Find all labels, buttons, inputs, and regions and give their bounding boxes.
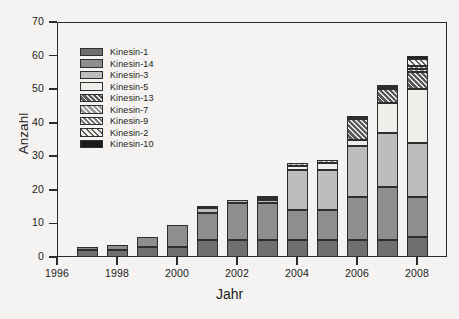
bar-segment-kinesin-1 <box>407 237 428 257</box>
chart-root: 010203040506070 199619982000200220042006… <box>0 0 459 319</box>
legend-item-kinesin-2: Kinesin-2 <box>80 127 154 137</box>
bar-2006 <box>347 116 368 257</box>
bar-segment-kinesin-1 <box>167 247 188 257</box>
bar-segment-kinesin-1 <box>317 240 338 257</box>
bar-segment-kinesin-14 <box>287 210 308 240</box>
bar-segment-kinesin-5 <box>197 206 218 208</box>
legend-item-kinesin-5: Kinesin-5 <box>80 81 154 91</box>
legend-item-kinesin-14: Kinesin-14 <box>80 58 154 68</box>
bar-segment-kinesin-14 <box>137 237 158 247</box>
bar-segment-kinesin-1 <box>287 240 308 257</box>
bar-segment-kinesin-14 <box>377 187 398 241</box>
bar-segment-kinesin-5 <box>347 140 368 147</box>
bar-segment-kinesin-3 <box>317 170 338 210</box>
bar-segment-kinesin-9 <box>257 196 278 198</box>
legend-item-label: Kinesin-9 <box>110 116 148 126</box>
bar-segment-kinesin-14 <box>77 247 98 250</box>
bar-segment-kinesin-14 <box>257 203 278 240</box>
bar-2008 <box>407 56 428 257</box>
legend-item-label: Kinesin-1 <box>110 47 148 57</box>
bar-2002 <box>227 200 248 257</box>
bar-segment-kinesin-3 <box>227 200 248 203</box>
legend-swatch-icon <box>80 48 103 56</box>
bar-2003 <box>257 197 278 257</box>
bar-segment-kinesin-1 <box>77 250 98 257</box>
bar-segment-kinesin-13 <box>407 72 428 89</box>
legend-swatch-icon <box>80 140 103 148</box>
bar-1999 <box>137 237 158 257</box>
bar-1998 <box>107 245 128 257</box>
bar-segment-kinesin-1 <box>347 240 368 257</box>
bar-segment-kinesin-1 <box>257 240 278 257</box>
legend-swatch-icon <box>80 59 103 67</box>
bar-segment-kinesin-14 <box>197 213 218 240</box>
bar-segment-kinesin-5 <box>287 166 308 169</box>
bar-segment-kinesin-13 <box>347 119 368 139</box>
legend-item-kinesin-3: Kinesin-3 <box>80 70 154 80</box>
legend-item-label: Kinesin-7 <box>110 105 148 115</box>
bar-segment-kinesin-1 <box>107 250 128 257</box>
bar-segment-kinesin-10 <box>407 56 428 59</box>
bar-segment-kinesin-9 <box>407 66 428 69</box>
legend-item-kinesin-9: Kinesin-9 <box>80 116 154 126</box>
bar-segment-kinesin-7 <box>317 160 338 163</box>
legend-swatch-icon <box>80 94 103 102</box>
bar-segment-kinesin-13 <box>377 89 398 102</box>
legend-swatch-icon <box>80 105 103 113</box>
bar-segment-kinesin-2 <box>407 59 428 66</box>
bar-segment-kinesin-2 <box>347 116 368 118</box>
bar-2004 <box>287 163 308 257</box>
bar-2000 <box>167 225 188 257</box>
bar-segment-kinesin-7 <box>287 163 308 166</box>
bar-segment-kinesin-14 <box>317 210 338 240</box>
legend-item-kinesin-7: Kinesin-7 <box>80 104 154 114</box>
bar-segment-kinesin-3 <box>257 200 278 203</box>
bar-segment-kinesin-14 <box>227 203 248 240</box>
bar-segment-kinesin-1 <box>377 240 398 257</box>
bar-segment-kinesin-3 <box>197 208 218 213</box>
bar-segment-kinesin-14 <box>107 245 128 250</box>
bar-series-area <box>0 0 459 319</box>
legend-item-label: Kinesin-3 <box>110 70 148 80</box>
legend-swatch-icon <box>80 117 103 125</box>
bar-segment-kinesin-3 <box>347 146 368 196</box>
legend-item-kinesin-1: Kinesin-1 <box>80 47 154 57</box>
bar-segment-kinesin-3 <box>287 170 308 210</box>
bar-segment-kinesin-5 <box>377 103 398 133</box>
bar-2005 <box>317 160 338 257</box>
bar-segment-kinesin-3 <box>377 133 398 187</box>
chart-legend: Kinesin-1Kinesin-14Kinesin-3Kinesin-5Kin… <box>80 47 154 149</box>
bar-segment-kinesin-9 <box>377 85 398 87</box>
bar-2001 <box>197 207 218 257</box>
bar-segment-kinesin-7 <box>407 69 428 72</box>
bar-2007 <box>377 86 398 257</box>
bar-segment-kinesin-14 <box>347 197 368 241</box>
bar-segment-kinesin-14 <box>407 197 428 237</box>
bar-segment-kinesin-1 <box>137 247 158 257</box>
legend-swatch-icon <box>80 128 103 136</box>
legend-item-label: Kinesin-10 <box>110 139 154 149</box>
bar-segment-kinesin-5 <box>407 89 428 143</box>
legend-item-kinesin-13: Kinesin-13 <box>80 93 154 103</box>
bar-segment-kinesin-3 <box>407 143 428 197</box>
legend-item-label: Kinesin-5 <box>110 82 148 92</box>
legend-swatch-icon <box>80 71 103 79</box>
legend-item-kinesin-10: Kinesin-10 <box>80 139 154 149</box>
bar-segment-kinesin-14 <box>167 225 188 247</box>
bar-segment-kinesin-1 <box>227 240 248 257</box>
legend-item-label: Kinesin-14 <box>110 59 154 69</box>
bar-segment-kinesin-5 <box>317 163 338 170</box>
legend-item-label: Kinesin-2 <box>110 128 148 138</box>
legend-item-label: Kinesin-13 <box>110 93 154 103</box>
bar-segment-kinesin-1 <box>197 240 218 257</box>
bar-1997 <box>77 247 98 257</box>
legend-swatch-icon <box>80 82 103 90</box>
